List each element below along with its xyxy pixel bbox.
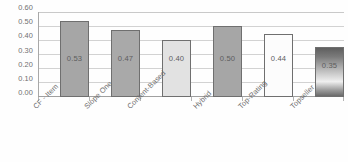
y-axis-tick-label: 0.60 [18, 4, 33, 11]
y-axis-tick-label: 0.40 [18, 33, 33, 40]
bar-value-label: 0.40 [169, 55, 185, 63]
bar-value-label: 0.50 [220, 55, 236, 63]
bar-value-label: 0.44 [271, 55, 287, 63]
plot-area: 0.53 0.47 0.40 0.50 0.44 0.35 [38, 12, 344, 97]
bar-topseller[interactable]: 0.35 [315, 47, 344, 97]
y-axis-tick-label: 0.30 [18, 47, 33, 54]
y-axis-tick-label: 0.50 [18, 18, 33, 25]
bar-top-rating[interactable]: 0.44 [264, 34, 293, 96]
bar-hybrid[interactable]: 0.50 [213, 26, 242, 97]
y-axis-tick-label: 0.10 [18, 75, 33, 82]
x-axis-category-labels: CF - Item Slope One Content-Based Hybrid… [38, 101, 344, 159]
bar-value-label: 0.47 [118, 55, 134, 63]
bar-cf-item[interactable]: 0.53 [60, 21, 89, 96]
y-axis-tick-label: 0.00 [18, 89, 33, 96]
bar-series: 0.53 0.47 0.40 0.50 0.44 0.35 [38, 12, 344, 97]
bar-value-label: 0.53 [67, 55, 83, 63]
y-axis-tick-label: 0.20 [18, 61, 33, 68]
bar-chart: 0.60 0.50 0.40 0.30 0.20 0.10 0.00 0.53 … [0, 0, 348, 162]
bar-slope-one[interactable]: 0.47 [111, 30, 140, 97]
y-axis-tick-labels: 0.60 0.50 0.40 0.30 0.20 0.10 0.00 [0, 8, 36, 100]
bar-value-label: 0.35 [322, 62, 338, 70]
x-axis-tick [343, 97, 344, 101]
x-axis-tick [191, 97, 192, 101]
bar-content-based[interactable]: 0.40 [162, 40, 191, 97]
